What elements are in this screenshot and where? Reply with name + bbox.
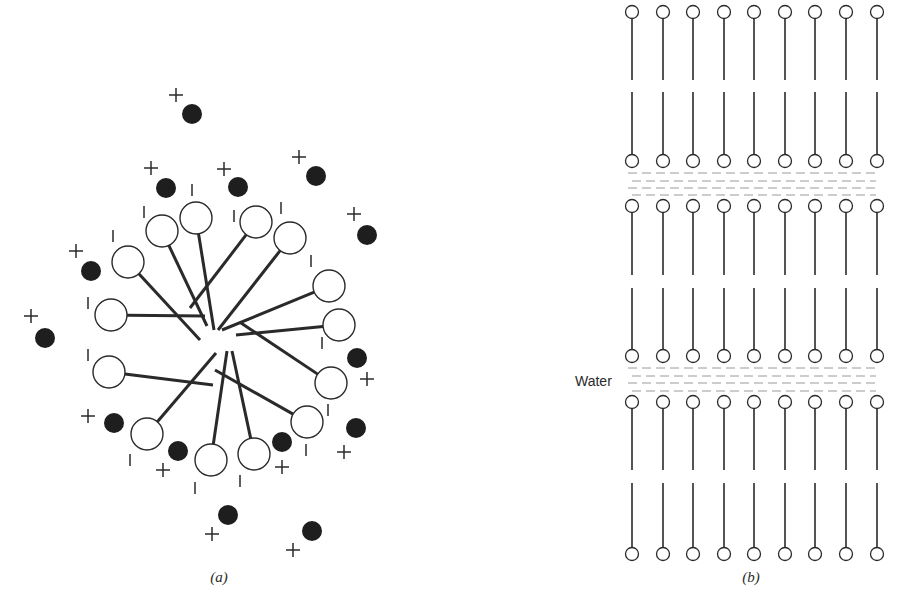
polar-head-circle	[323, 309, 355, 341]
polar-head-circle	[95, 299, 127, 331]
lipid-pair	[840, 396, 853, 561]
bilayer-layer	[626, 6, 884, 168]
lipid-head-circle	[809, 548, 822, 561]
lipid-head-circle	[779, 200, 792, 213]
counter-ion	[205, 505, 238, 541]
lipid-head-circle	[748, 155, 761, 168]
bilayer-layer	[626, 200, 884, 363]
lipid-head-circle	[657, 396, 670, 409]
counter-ion	[144, 161, 176, 198]
figure-canvas: (a) (b) Water	[0, 0, 899, 611]
counter-ion-dot	[302, 521, 322, 541]
lipid-head-circle	[809, 155, 822, 168]
lipid-pair	[626, 396, 639, 561]
lipid-head-circle	[748, 548, 761, 561]
counter-ion-dot	[168, 441, 188, 461]
counter-ion-dot	[182, 104, 202, 124]
water-band	[628, 368, 876, 391]
lipid-head-circle	[687, 155, 700, 168]
lipid-pair	[840, 200, 853, 363]
lipid-head-circle	[687, 6, 700, 19]
lipid-head-circle	[657, 6, 670, 19]
polar-head-circle	[146, 215, 178, 247]
counter-ion-dot	[156, 178, 176, 198]
bilayer-layer	[626, 396, 884, 561]
lipid-head-circle	[871, 155, 884, 168]
lipid-pair	[871, 200, 884, 363]
panel-b-lamellar	[626, 6, 884, 561]
polar-head-circle	[112, 246, 144, 278]
lipid-head-circle	[840, 200, 853, 213]
polar-head-circle	[238, 438, 270, 470]
counter-ion	[337, 418, 366, 459]
polar-head-circle	[240, 206, 272, 238]
panel-b-label: (b)	[742, 569, 760, 586]
counter-ion	[286, 521, 322, 557]
lipid-pair	[779, 6, 792, 168]
polar-head-circle	[291, 406, 323, 438]
hydrocarbon-tail	[222, 292, 314, 330]
lipid-head-circle	[687, 396, 700, 409]
counter-ion	[217, 162, 248, 197]
panel-a-micelle	[24, 88, 377, 557]
lipid-pair	[779, 396, 792, 561]
lipid-head-circle	[871, 396, 884, 409]
lipid-pair	[626, 6, 639, 168]
lipid-head-circle	[871, 200, 884, 213]
hydrocarbon-tail	[232, 351, 251, 438]
counter-ion-dot	[228, 177, 248, 197]
lipid-head-circle	[657, 350, 670, 363]
lipid-pair	[748, 200, 761, 363]
lipid-head-circle	[718, 350, 731, 363]
lipid-head-circle	[809, 350, 822, 363]
hydrocarbon-tail	[127, 315, 205, 316]
water-label: Water	[575, 373, 612, 389]
panel-a-label: (a)	[210, 569, 228, 586]
counter-ion	[156, 441, 188, 477]
counter-ion-dot	[218, 505, 238, 525]
water-band	[628, 173, 876, 195]
counter-ion	[81, 409, 124, 433]
lipid-head-circle	[779, 548, 792, 561]
lipid-head-circle	[809, 396, 822, 409]
lipid-head-circle	[657, 200, 670, 213]
lipid-head-circle	[871, 6, 884, 19]
lipid-head-circle	[718, 548, 731, 561]
polar-head-circle	[274, 222, 306, 254]
counter-ion	[347, 207, 377, 245]
lipid-pair	[840, 6, 853, 168]
lipid-head-circle	[748, 6, 761, 19]
lipid-head-circle	[840, 155, 853, 168]
lipid-head-circle	[626, 548, 639, 561]
counter-ion-dot	[35, 328, 55, 348]
lipid-pair	[871, 6, 884, 168]
hydrocarbon-tail	[157, 353, 216, 422]
lipid-pair	[748, 396, 761, 561]
lipid-head-circle	[626, 6, 639, 19]
lipid-head-circle	[626, 200, 639, 213]
lipid-head-circle	[809, 6, 822, 19]
lipid-head-circle	[871, 548, 884, 561]
lipid-pair	[809, 200, 822, 363]
counter-ion-dot	[81, 261, 101, 281]
counter-ion	[169, 88, 202, 124]
counter-ion-dot	[272, 432, 292, 452]
counter-ion	[292, 150, 326, 186]
lipid-head-circle	[779, 6, 792, 19]
lipid-head-circle	[748, 200, 761, 213]
lipid-head-circle	[840, 6, 853, 19]
lipid-head-circle	[871, 350, 884, 363]
lipid-head-circle	[687, 350, 700, 363]
amphiphile-molecule	[88, 349, 213, 388]
polar-head-circle	[313, 270, 345, 302]
counter-ion-dot	[104, 413, 124, 433]
hydrocarbon-tail	[190, 235, 246, 308]
counter-ion-dot	[306, 166, 326, 186]
lipid-pair	[687, 6, 700, 168]
lipid-pair	[748, 6, 761, 168]
lipid-pair	[687, 396, 700, 561]
lipid-head-circle	[748, 350, 761, 363]
lipid-head-circle	[840, 548, 853, 561]
lipid-head-circle	[626, 396, 639, 409]
lipid-pair	[657, 396, 670, 561]
